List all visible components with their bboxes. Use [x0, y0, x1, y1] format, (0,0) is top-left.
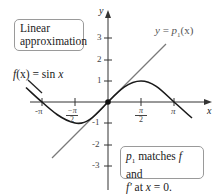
y-tick-1: 1 [97, 75, 102, 85]
callout-line-1: Linear [20, 22, 78, 35]
p1-label: y = p1(x) [155, 24, 193, 39]
y-axis-label: y [99, 5, 103, 16]
matches-line-2: f′ at x = 0. [126, 181, 198, 194]
x-tick-neg-half-pi: −π2 [66, 107, 78, 124]
linear-approximation-callout: Linear approximation [14, 19, 84, 51]
y-tick-3: 3 [97, 32, 102, 42]
x-tick-neg-pi: -π [35, 106, 43, 116]
y-tick-neg3: -3 [92, 160, 100, 170]
tangency-point [105, 99, 111, 105]
x-tick-pi: π [171, 106, 176, 116]
x-axis-label: x [207, 105, 211, 116]
callout-line-2: approximation [20, 35, 78, 48]
x-symbol: x [58, 68, 63, 80]
matches-line-1: p1 matches f and [126, 150, 198, 181]
f-label-text: (x) = sin [16, 68, 58, 80]
x-tick-half-pi: π2 [135, 107, 147, 124]
y-tick-neg1: -1 [92, 117, 100, 127]
f-label: f(x) = sin x [13, 68, 63, 80]
p1-arg: (x) [181, 24, 194, 36]
y-tick-2: 2 [97, 54, 102, 64]
y-axis-arrow-icon [105, 10, 111, 18]
y-tick-neg2: -2 [92, 139, 100, 149]
matches-callout: p1 matches f and f′ at x = 0. [120, 146, 204, 179]
eq-symbol: = [160, 24, 172, 36]
